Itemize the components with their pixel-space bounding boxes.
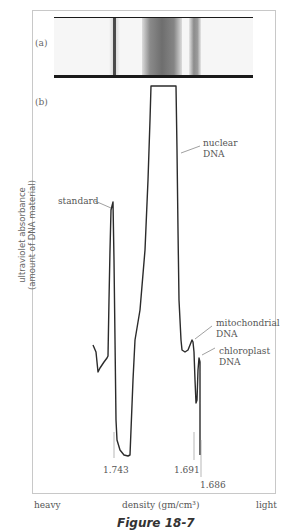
y-axis-label: ultraviolet absorbance (amount of DNA ma… <box>17 160 37 310</box>
standard-label: standard <box>58 196 99 206</box>
chloro-label-line1: chloroplast <box>219 346 270 356</box>
nuclear-label-line1: nuclear <box>203 138 238 148</box>
x-axis-title: density (gm/cm³) <box>122 500 199 510</box>
tick-label-1691: 1.691 <box>174 465 200 475</box>
x-axis-light-label: light <box>256 500 277 510</box>
tick-label-1743: 1.743 <box>103 465 129 475</box>
chloro-leader <box>202 348 215 355</box>
tick-label-1686: 1.686 <box>200 480 226 490</box>
figure-caption: Figure 18-7 <box>117 516 195 530</box>
mito-leader <box>195 326 212 339</box>
nuclear-leader <box>181 146 200 153</box>
absorbance-curve <box>93 86 200 456</box>
mito-label-line2: DNA <box>216 329 238 339</box>
y-axis-label-line1: ultraviolet absorbance <box>17 160 27 310</box>
chloro-label-line2: DNA <box>219 357 241 367</box>
x-axis-heavy-label: heavy <box>34 500 61 510</box>
mito-label-line1: mitochondrial <box>216 318 280 328</box>
y-axis-label-line2: (amount of DNA material) <box>27 160 37 310</box>
nuclear-label-line2: DNA <box>203 149 225 159</box>
